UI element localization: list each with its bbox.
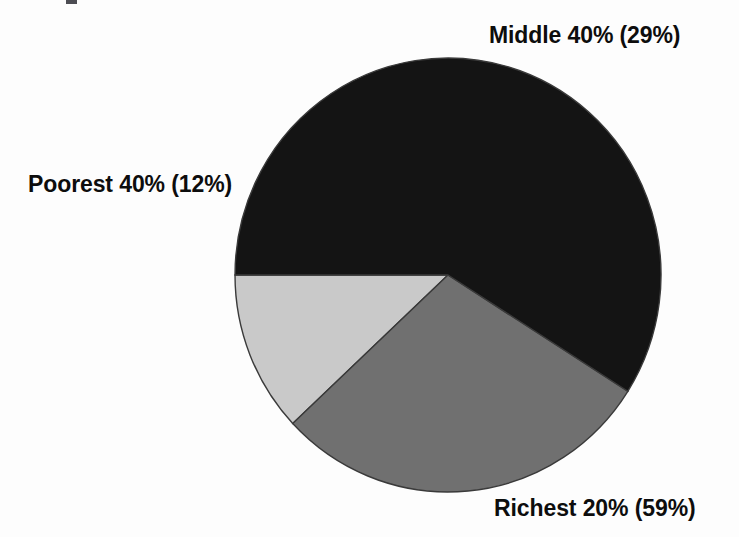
pie-label-poorest: Poorest 40% (12%) bbox=[28, 173, 232, 196]
pie-slice-group bbox=[235, 58, 661, 492]
pie-label-middle: Middle 40% (29%) bbox=[489, 24, 680, 47]
pie-chart-figure: Middle 40% (29%) Poorest 40% (12%) Riche… bbox=[0, 0, 739, 537]
pie-label-richest: Richest 20% (59%) bbox=[494, 497, 696, 520]
pie-chart-graphic bbox=[0, 0, 739, 537]
